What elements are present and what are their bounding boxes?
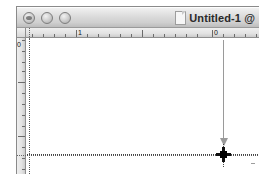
screenshot-root: Untitled-1 @ 10 0 [0, 0, 259, 174]
ruler-tick-minor [186, 34, 187, 37]
ruler-tick-minor [43, 34, 44, 37]
ruler-tick-minor [22, 104, 25, 105]
window-title-area: Untitled-1 @ [175, 9, 255, 26]
ruler-tick-minor [175, 34, 176, 37]
ruler-tick-minor [131, 34, 132, 37]
ruler-tick-major [18, 136, 25, 137]
ruler-tick-minor [109, 34, 110, 37]
ruler-tick-major [18, 82, 25, 83]
ruler-tick-minor [22, 62, 25, 63]
ruler-tick-minor [98, 34, 99, 37]
ruler-tick-minor [22, 126, 25, 127]
ruler-label-horizontal: 1 [78, 29, 82, 36]
minimize-button[interactable] [41, 12, 53, 24]
crosshair-anchor-marker[interactable] [216, 147, 231, 162]
document-icon [175, 11, 186, 25]
ruler-tick-minor [120, 34, 121, 37]
ruler-tick-minor [87, 34, 88, 37]
ruler-tick-minor [153, 34, 154, 37]
canvas-corner-mark [251, 163, 255, 164]
ruler-tick-minor [32, 34, 33, 37]
window-titlebar[interactable]: Untitled-1 @ [17, 7, 259, 28]
document-canvas[interactable] [27, 39, 259, 174]
ruler-tick-minor [234, 34, 235, 37]
ruler-tick-minor [65, 34, 66, 37]
crosshair-core [220, 151, 227, 158]
ruler-tick-minor [223, 34, 224, 37]
ruler-label-vertical: 0 [17, 41, 21, 48]
zoom-button[interactable] [59, 12, 71, 24]
ruler-tick-major [212, 30, 213, 37]
ruler-tick-minor [22, 93, 25, 94]
ruler-tick-minor [22, 71, 25, 72]
ruler-origin-box[interactable] [17, 28, 26, 38]
ruler-tick-major [76, 30, 77, 37]
vertical-ruler[interactable]: 0 [17, 38, 26, 174]
application-window: Untitled-1 @ 10 0 [16, 6, 259, 174]
horizontal-ruler[interactable]: 10 [26, 28, 259, 38]
guide-stub-vertical [29, 28, 30, 39]
window-title: Untitled-1 @ [189, 12, 255, 24]
ruler-tick-minor [164, 34, 165, 37]
ruler-tick-minor [256, 34, 257, 37]
ruler-tick-minor [22, 115, 25, 116]
guide-stub-horizontal [17, 155, 27, 156]
ruler-tick-minor [54, 34, 55, 37]
drag-arrow-shaft [223, 40, 224, 139]
ruler-tick-minor [197, 34, 198, 37]
ruler-tick-minor [22, 40, 25, 41]
close-button[interactable] [23, 12, 35, 24]
ruler-tick-minor [245, 34, 246, 37]
drag-arrow-head [220, 138, 228, 146]
ruler-tick-minor [22, 158, 25, 159]
ruler-tick-minor [22, 147, 25, 148]
ruler-tick-major [142, 30, 143, 37]
ruler-tick-minor [22, 51, 25, 52]
ruler-label-horizontal: 0 [214, 29, 218, 36]
ruler-tick-minor [22, 169, 25, 170]
